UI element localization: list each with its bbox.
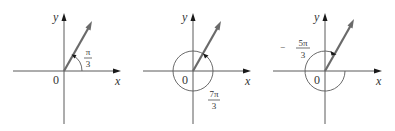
angle-numerator: 7π [209,89,219,99]
y-axis-label: y [313,10,320,24]
angle-label: π 3 [84,47,92,69]
vector-arrow-icon [348,19,355,29]
origin-label: 0 [314,73,320,87]
x-axis-label: x [114,74,121,88]
x-axis-label: x [244,74,251,88]
x-axis-arrow-icon [243,69,251,74]
angle-denominator: 3 [86,59,91,69]
x-axis-arrow-icon [374,69,382,74]
y-axis-arrow-icon [62,13,67,21]
y-axis-label: y [181,10,188,24]
angle-numerator: 5π [298,38,308,48]
angle-label: 7π 3 [208,89,220,111]
vector-arrow-icon [215,21,222,31]
vector-arrow-icon [86,21,93,31]
angle-denominator: 3 [212,101,217,111]
y-axis-arrow-icon [323,13,328,21]
panel-angle-pi-over-3: y x 0 π 3 [13,10,121,124]
y-axis-arrow-icon [191,13,196,21]
terminal-side-vector [325,25,351,71]
panel-angle-7pi-over-3: y x 0 7π 3 [143,10,251,124]
x-axis-label: x [375,74,382,88]
angle-sign: − [280,42,285,52]
terminal-side-vector [193,27,218,71]
x-axis-arrow-icon [113,69,121,74]
angle-diagrams-figure: y x 0 π 3 y x 0 7π 3 [0,0,395,131]
origin-label: 0 [182,73,188,87]
angle-numerator: π [86,47,91,57]
y-axis-label: y [52,10,59,24]
origin-label: 0 [53,73,59,87]
angle-label: − 5π 3 [280,38,310,60]
angle-denominator: 3 [301,50,306,60]
panel-angle-minus-5pi-over-3: y x 0 − 5π 3 [273,10,382,124]
